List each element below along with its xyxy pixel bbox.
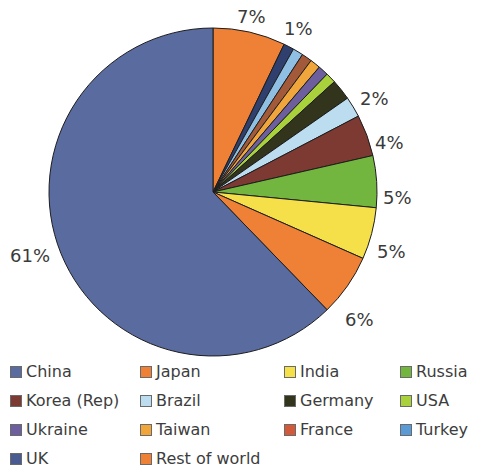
legend-color-swatch: [10, 453, 22, 465]
legend-item-label: Taiwan: [156, 422, 210, 438]
legend-item-label: France: [300, 422, 353, 438]
pie-data-label-japan: 7%: [237, 6, 266, 27]
legend-color-swatch: [284, 366, 296, 378]
legend-color-swatch: [140, 424, 152, 436]
legend-item-label: China: [26, 364, 72, 380]
legend-row: ChinaJapanIndiaRussia: [0, 358, 499, 386]
legend-color-swatch: [284, 395, 296, 407]
legend-item-france[interactable]: France: [284, 416, 353, 444]
legend-item-ukraine[interactable]: Ukraine: [10, 416, 88, 444]
legend-item-india[interactable]: India: [284, 358, 339, 386]
legend-color-swatch: [10, 424, 22, 436]
legend-item-russia[interactable]: Russia: [400, 358, 467, 386]
legend-item-label: USA: [416, 393, 449, 409]
legend-item-label: UK: [26, 451, 48, 467]
legend-item-brazil[interactable]: Brazil: [140, 387, 201, 415]
legend-color-swatch: [140, 395, 152, 407]
legend-color-swatch: [400, 366, 412, 378]
pie-chart-figure: 7%1%2%4%5%5%6%61% ChinaJapanIndiaRussiaK…: [0, 0, 499, 476]
legend-row: Korea (Rep)BrazilGermanyUSA: [0, 387, 499, 415]
legend-item-turkey[interactable]: Turkey: [400, 416, 468, 444]
legend-item-china[interactable]: China: [10, 358, 72, 386]
legend-row: UKRest of world: [0, 445, 499, 473]
legend-color-swatch: [140, 453, 152, 465]
legend-row: UkraineTaiwanFranceTurkey: [0, 416, 499, 444]
legend-item-label: Russia: [416, 364, 467, 380]
pie-data-label-rest-of-world: 6%: [345, 309, 374, 330]
legend-item-label: Ukraine: [26, 422, 88, 438]
chart-legend: ChinaJapanIndiaRussiaKorea (Rep)BrazilGe…: [0, 358, 499, 476]
legend-item-korea[interactable]: Korea (Rep): [10, 387, 119, 415]
legend-item-label: Brazil: [156, 393, 201, 409]
legend-item-taiwan[interactable]: Taiwan: [140, 416, 210, 444]
legend-item-label: Japan: [156, 364, 201, 380]
legend-item-label: Korea (Rep): [26, 393, 119, 409]
pie-slice-group: [49, 28, 377, 356]
legend-item-japan[interactable]: Japan: [140, 358, 201, 386]
pie-chart-plot-area: 7%1%2%4%5%5%6%61%: [0, 0, 499, 360]
legend-color-swatch: [10, 395, 22, 407]
pie-chart-svg: [0, 0, 499, 360]
pie-data-label-germany: 2%: [360, 88, 389, 109]
pie-data-label-india: 5%: [377, 241, 406, 262]
legend-item-usa[interactable]: USA: [400, 387, 449, 415]
legend-item-rest-of-world[interactable]: Rest of world: [140, 445, 261, 473]
legend-color-swatch: [400, 395, 412, 407]
legend-color-swatch: [284, 424, 296, 436]
pie-data-label-korea-rep: 4%: [375, 132, 404, 153]
legend-color-swatch: [10, 366, 22, 378]
legend-item-label: Germany: [300, 393, 374, 409]
pie-data-label-russia: 5%: [383, 187, 412, 208]
pie-data-label-china: 61%: [10, 245, 50, 266]
legend-item-germany[interactable]: Germany: [284, 387, 374, 415]
legend-color-swatch: [140, 366, 152, 378]
legend-item-label: Rest of world: [156, 451, 261, 467]
legend-color-swatch: [400, 424, 412, 436]
legend-item-label: India: [300, 364, 339, 380]
legend-item-label: Turkey: [416, 422, 468, 438]
legend-item-uk[interactable]: UK: [10, 445, 48, 473]
pie-data-label-turkey: 1%: [284, 18, 313, 39]
